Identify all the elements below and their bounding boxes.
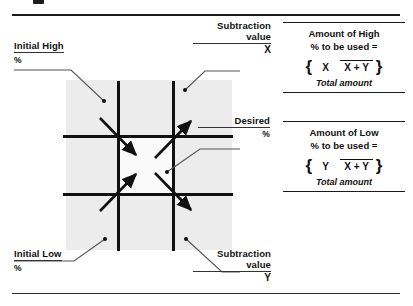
bottom-divider-rule xyxy=(12,293,400,294)
formula-high-footer: Total amount xyxy=(283,78,405,88)
callout-desired-unit: % xyxy=(262,129,270,139)
formula-panel-spacer xyxy=(283,93,405,121)
formula-low-denominator: X + Y xyxy=(340,159,373,172)
figure-page: Initial High % Subtraction value X Desir… xyxy=(0,0,413,306)
formula-high-line1: Amount of High xyxy=(283,28,405,41)
formula-low-fraction: { Y X + Y } xyxy=(283,156,405,174)
callout-desired: Desired % xyxy=(198,115,270,140)
leader-dot-subtraction-y xyxy=(184,237,188,241)
formula-low-frac: Y X + Y xyxy=(315,156,373,174)
leader-dot-initial-high xyxy=(102,99,106,103)
callout-subtraction-y-variable: Y xyxy=(264,272,271,283)
callout-initial-low-unit: % xyxy=(14,263,62,274)
callout-subtraction-y-line1: Subtraction xyxy=(217,248,271,259)
formula-high-brace-open: { xyxy=(306,58,313,75)
formula-high-brace-close: } xyxy=(376,58,383,75)
formula-high-frac: X X + Y xyxy=(315,57,373,75)
leader-dot-desired xyxy=(165,170,169,174)
callout-initial-high-unit: % xyxy=(14,55,64,66)
formula-high-numerator: X xyxy=(315,62,336,73)
formula-panel: Amount of High % to be used = { X X + Y … xyxy=(283,22,405,192)
callout-initial-low: Initial Low % xyxy=(14,248,62,274)
callout-subtraction-y-line2: value xyxy=(193,259,271,272)
formula-low-numerator: Y xyxy=(315,161,336,172)
callout-subtraction-x-line2: value xyxy=(193,31,271,44)
formula-rule-4 xyxy=(283,191,405,192)
formula-amount-of-low: Amount of Low % to be used = { Y X + Y }… xyxy=(283,122,405,191)
formula-low-brace-open: { xyxy=(306,157,313,174)
formula-low-line1: Amount of Low xyxy=(283,127,405,140)
formula-high-fraction: { X X + Y } xyxy=(283,57,405,75)
formula-amount-of-high: Amount of High % to be used = { X X + Y … xyxy=(283,23,405,92)
callout-subtraction-value-y: Subtraction value Y xyxy=(193,248,271,283)
callout-subtraction-x-variable: X xyxy=(264,44,271,55)
callout-desired-label: Desired xyxy=(198,115,270,128)
formula-high-line2: % to be used = xyxy=(283,41,405,54)
leader-dot-initial-low xyxy=(103,237,107,241)
callout-initial-high-label: Initial High xyxy=(14,40,64,53)
formula-low-line2: % to be used = xyxy=(283,140,405,153)
leader-line-subtraction-x xyxy=(185,71,240,90)
top-divider-rule xyxy=(12,14,400,16)
formula-low-brace-close: } xyxy=(376,157,383,174)
cropped-text-glyph xyxy=(33,0,44,4)
leader-line-desired xyxy=(167,149,240,172)
callout-initial-high: Initial High % xyxy=(14,40,64,66)
formula-low-footer: Total amount xyxy=(283,177,405,187)
callout-initial-low-label: Initial Low xyxy=(14,248,62,261)
callout-subtraction-value-x: Subtraction value X xyxy=(193,20,271,55)
formula-high-denominator: X + Y xyxy=(340,60,373,73)
leader-dot-subtraction-x xyxy=(183,88,187,92)
leader-line-initial-high xyxy=(14,70,104,101)
callout-subtraction-x-line1: Subtraction xyxy=(217,20,271,31)
